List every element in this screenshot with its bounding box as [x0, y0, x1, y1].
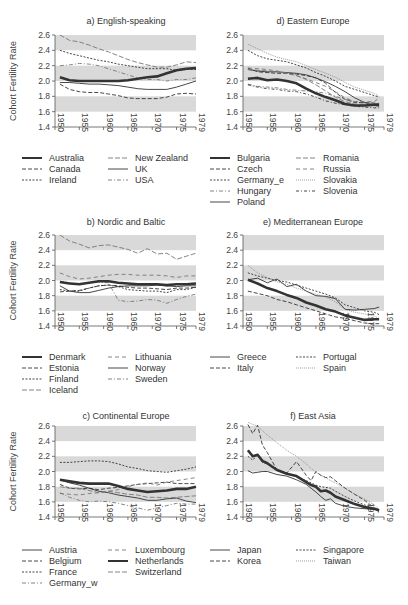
panel-title: a) English-speaking: [86, 16, 165, 26]
x-tick-label: 1965: [129, 113, 139, 132]
x-tick-label: 1979: [197, 312, 207, 331]
grid-band: [243, 456, 384, 471]
grid-band: [55, 35, 196, 50]
y-tick-label: 2.4: [226, 436, 238, 446]
legend-label: Slovakia: [323, 175, 357, 185]
legend-item: France: [22, 567, 77, 577]
legend-item: Singapore: [296, 545, 364, 555]
y-tick-label: 2.2: [38, 451, 50, 461]
legend-label: Spain: [323, 363, 346, 373]
legend-label: Slovenia: [323, 186, 358, 196]
grid-band: [55, 296, 196, 311]
x-tick-label: 1955: [80, 503, 90, 522]
panel-title: d) Eastern Europe: [276, 16, 349, 26]
legend-item: Germany_e: [210, 175, 284, 185]
legend-item: New Zealand: [108, 153, 188, 163]
legend-item: Bulgaria: [210, 153, 270, 163]
y-tick-label: 2.0: [226, 76, 238, 86]
legend-label: Finland: [49, 374, 79, 384]
y-tick-label: 2.0: [226, 467, 238, 477]
y-tick-label: 1.8: [226, 482, 238, 492]
legend-label: Canada: [49, 164, 81, 174]
legend-label: Austria: [49, 545, 77, 555]
legend-label: Czech: [237, 164, 263, 174]
x-tick-label: 1955: [268, 113, 278, 132]
x-tick-label: 1970: [153, 312, 163, 331]
x-tick-label: 1950: [244, 113, 254, 132]
x-tick-label: 1950: [244, 503, 254, 522]
y-tick-label: 2.4: [38, 245, 50, 255]
legend-item: Denmark: [22, 352, 86, 362]
legend-label: Greece: [237, 352, 267, 362]
panel-title: f) East Asia: [290, 411, 336, 421]
x-tick-label: 1955: [268, 312, 278, 331]
panel-english-speaking: a) English-speaking 1.41.61.82.02.22.42.…: [8, 16, 207, 185]
x-tick-label: 1975: [178, 503, 188, 522]
grid-band: [55, 96, 196, 111]
y-tick-label: 1.6: [38, 497, 50, 507]
panel-mediterranean-europe: e) Mediterranean Europe 1.41.61.82.02.22…: [210, 217, 395, 373]
legend-item: Australia: [22, 153, 84, 163]
legend-label: Switzerland: [135, 567, 182, 577]
y-axis-label: Cohort Fertility Rate: [8, 431, 18, 511]
legend-label: Singapore: [323, 545, 364, 555]
y-tick-label: 2.4: [38, 436, 50, 446]
x-tick-label: 1950: [244, 312, 254, 331]
x-tick-label: 1965: [317, 312, 327, 331]
grid-band: [243, 235, 384, 250]
y-tick-label: 1.8: [226, 291, 238, 301]
legend-label: Denmark: [49, 352, 86, 362]
legend-item: Sweden: [108, 374, 168, 384]
panel-title: e) Mediterranean Europe: [263, 217, 363, 227]
legend-item: Hungary: [210, 186, 272, 196]
legend-label: Australia: [49, 153, 84, 163]
legend-item: Belgium: [22, 556, 82, 566]
legend-item: Estonia: [22, 363, 79, 373]
legend-label: Japan: [237, 545, 262, 555]
x-tick-label: 1975: [178, 113, 188, 132]
legend-label: Germany_w: [49, 578, 98, 588]
legend-label: USA: [135, 175, 154, 185]
panel-east-asia: f) East Asia 1.41.61.82.02.22.42.6195019…: [210, 411, 395, 566]
x-tick-label: 1979: [385, 113, 395, 132]
x-tick-label: 1970: [153, 113, 163, 132]
legend-item: Slovenia: [296, 186, 358, 196]
grid-band: [243, 265, 384, 280]
series-line-denmark: [60, 281, 196, 285]
y-tick-label: 1.4: [226, 122, 238, 132]
x-tick-label: 1965: [129, 312, 139, 331]
y-tick-label: 2.0: [38, 276, 50, 286]
legend-label: Korea: [237, 556, 261, 566]
legend-item: Iceland: [22, 385, 78, 395]
panel-title: c) Continental Europe: [82, 411, 169, 421]
panel-eastern-europe: d) Eastern Europe 1.41.61.82.02.22.42.61…: [210, 16, 395, 207]
legend-label: Netherlands: [135, 556, 184, 566]
x-tick-label: 1960: [293, 113, 303, 132]
legend-item: Canada: [22, 164, 81, 174]
grid-band: [243, 35, 384, 50]
legend-item: Greece: [210, 352, 267, 362]
legend-label: Ireland: [49, 175, 77, 185]
legend-label: Estonia: [49, 363, 79, 373]
legend-item: Poland: [210, 197, 265, 207]
y-tick-label: 2.0: [38, 76, 50, 86]
grid-band: [243, 296, 384, 311]
x-tick-label: 1965: [317, 503, 327, 522]
x-tick-label: 1955: [268, 503, 278, 522]
legend-item: Czech: [210, 164, 263, 174]
series-line-norway: [60, 285, 196, 293]
y-tick-label: 2.6: [38, 230, 50, 240]
legend-item: Italy: [210, 363, 254, 373]
y-tick-label: 1.6: [226, 306, 238, 316]
y-tick-label: 1.8: [38, 91, 50, 101]
x-tick-label: 1970: [341, 113, 351, 132]
x-tick-label: 1979: [385, 312, 395, 331]
y-tick-label: 2.4: [226, 245, 238, 255]
grid-band: [55, 426, 196, 441]
y-tick-label: 1.6: [38, 306, 50, 316]
y-tick-label: 2.2: [226, 260, 238, 270]
y-axis-label: Cohort Fertility Rate: [8, 41, 18, 121]
x-tick-label: 1960: [105, 503, 115, 522]
y-tick-label: 1.6: [226, 107, 238, 117]
y-tick-label: 1.8: [226, 91, 238, 101]
